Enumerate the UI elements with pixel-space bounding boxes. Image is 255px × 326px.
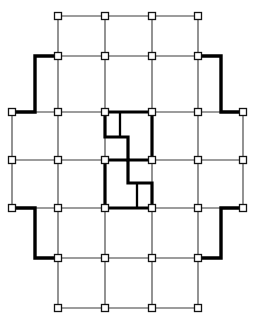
column-node [102,109,109,116]
column-node [102,255,109,262]
column-node [102,13,109,20]
floor-plan-canvas [0,0,255,326]
column-node [55,53,62,60]
column-node [102,305,109,312]
column-node [195,109,202,116]
column-node [55,109,62,116]
column-node [102,157,109,164]
column-node [195,157,202,164]
column-node [55,13,62,20]
column-node [9,157,16,164]
column-node [55,305,62,312]
column-node [240,157,247,164]
column-node [102,205,109,212]
column-node [9,109,16,116]
column-node [195,305,202,312]
column-node [55,157,62,164]
column-node [149,53,156,60]
column-node [240,109,247,116]
floor-plan-figure [0,0,255,326]
column-node [149,205,156,212]
column-node [149,13,156,20]
column-node [195,255,202,262]
column-node [149,255,156,262]
column-node [55,255,62,262]
column-node [149,109,156,116]
column-node [9,205,16,212]
column-node [149,157,156,164]
column-node [195,205,202,212]
column-node [240,205,247,212]
column-node [102,53,109,60]
column-node [195,53,202,60]
column-node [195,13,202,20]
column-node [149,305,156,312]
column-node [55,205,62,212]
